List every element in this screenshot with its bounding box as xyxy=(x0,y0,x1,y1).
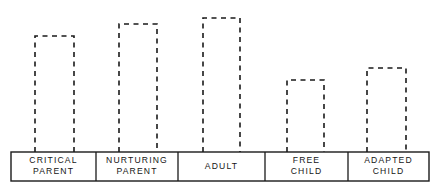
chart-canvas: CRITICALPARENTNURTURINGPARENTADULTFREECH… xyxy=(0,0,440,196)
category-label-adult: ADULT xyxy=(205,161,238,171)
bar-nurturing-parent xyxy=(119,24,157,152)
category-label-free-child: FREECHILD xyxy=(291,155,323,176)
bar-adapted-child xyxy=(367,68,406,152)
bar-adult xyxy=(203,18,240,152)
bar-free-child xyxy=(287,80,324,152)
category-label-nurturing-parent: NURTURINGPARENT xyxy=(106,155,168,176)
bar-critical-parent xyxy=(35,36,74,152)
category-label-critical-parent: CRITICALPARENT xyxy=(29,155,77,176)
bars-group xyxy=(35,18,406,152)
egogram-chart: CRITICALPARENTNURTURINGPARENTADULTFREECH… xyxy=(0,0,440,196)
category-labels-group: CRITICALPARENTNURTURINGPARENTADULTFREECH… xyxy=(29,155,413,176)
category-label-adapted-child: ADAPTEDCHILD xyxy=(364,155,413,176)
